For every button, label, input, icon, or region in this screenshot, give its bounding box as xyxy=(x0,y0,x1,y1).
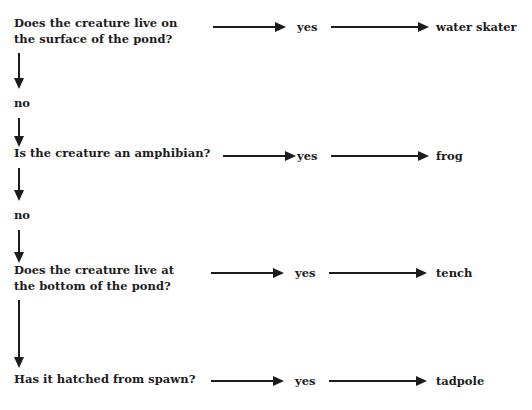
arrow-head xyxy=(416,268,427,278)
arrow-down-question-1-to-no-1 xyxy=(14,53,25,89)
yes-label-3: yes xyxy=(295,266,315,280)
arrow-shaft xyxy=(211,272,274,274)
arrow-right-yes-to-answer-4 xyxy=(329,376,427,387)
arrow-shaft xyxy=(18,230,20,253)
arrow-down-question-3-to-question-4 xyxy=(14,300,25,368)
arrow-right-yes-to-answer-2 xyxy=(331,151,429,162)
arrow-shaft xyxy=(18,53,20,79)
arrow-shaft xyxy=(329,272,417,274)
arrow-right-question-1-to-yes xyxy=(213,22,286,33)
answer-label-water-skater: water skater xyxy=(436,20,517,34)
arrow-right-yes-to-answer-1 xyxy=(331,22,429,33)
arrow-down-no-1-to-question-2 xyxy=(14,118,25,146)
question-1-text: Does the creature live on the surface of… xyxy=(14,16,214,47)
arrow-head xyxy=(285,151,296,161)
arrow-shaft xyxy=(331,155,419,157)
arrow-shaft xyxy=(213,26,276,28)
answer-label-frog: frog xyxy=(436,149,463,163)
arrow-shaft xyxy=(18,168,20,191)
arrow-head xyxy=(418,151,429,161)
no-label-1: no xyxy=(14,96,30,110)
answer-label-tench: tench xyxy=(436,266,472,280)
yes-label-2: yes xyxy=(297,149,317,163)
answer-label-tadpole: tadpole xyxy=(436,374,484,388)
arrow-shaft xyxy=(223,155,286,157)
arrow-down-question-2-to-no-2 xyxy=(14,168,25,201)
arrow-right-yes-to-answer-3 xyxy=(329,268,427,279)
no-label-2: no xyxy=(14,208,30,222)
arrow-shaft xyxy=(18,300,20,358)
arrow-down-no-2-to-question-3 xyxy=(14,230,25,263)
yes-label-4: yes xyxy=(295,374,315,388)
arrow-head xyxy=(14,190,24,201)
arrow-head xyxy=(275,22,286,32)
arrow-head xyxy=(418,22,429,32)
arrow-head xyxy=(14,357,24,368)
question-3-text: Does the creature live at the bottom of … xyxy=(14,263,214,294)
arrow-shaft xyxy=(18,118,20,137)
arrow-right-question-2-to-yes xyxy=(223,151,296,162)
arrow-head xyxy=(273,376,284,386)
arrow-shaft xyxy=(211,380,274,382)
arrow-head xyxy=(14,252,24,263)
question-2-text: Is the creature an amphibian? xyxy=(14,146,229,162)
arrow-shaft xyxy=(329,380,417,382)
arrow-right-question-4-to-yes xyxy=(211,376,284,387)
yes-label-1: yes xyxy=(297,20,317,34)
arrow-head xyxy=(14,78,24,89)
flowchart-canvas: Does the creature live on the surface of… xyxy=(0,0,532,410)
arrow-head xyxy=(416,376,427,386)
question-4-text: Has it hatched from spawn? xyxy=(14,372,224,388)
arrow-head xyxy=(273,268,284,278)
arrow-right-question-3-to-yes xyxy=(211,268,284,279)
arrow-shaft xyxy=(331,26,419,28)
